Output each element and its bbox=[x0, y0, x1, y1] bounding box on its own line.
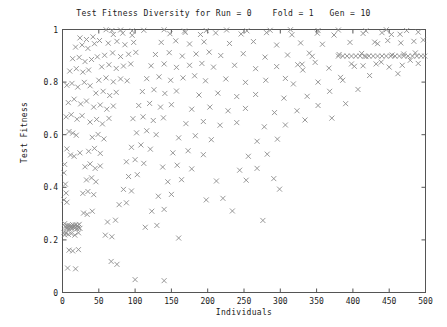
data-point-marker bbox=[316, 80, 321, 85]
data-point-marker bbox=[416, 30, 421, 35]
data-point-marker bbox=[63, 182, 68, 187]
data-point-marker bbox=[77, 35, 82, 40]
data-point-marker bbox=[141, 114, 146, 119]
data-point-marker bbox=[398, 32, 403, 37]
data-point-marker bbox=[316, 103, 321, 108]
data-point-marker bbox=[124, 200, 129, 205]
data-point-marker bbox=[169, 192, 174, 197]
data-point-marker bbox=[181, 75, 186, 80]
x-tick-label: 150 bbox=[164, 297, 178, 306]
data-point-marker bbox=[263, 78, 268, 83]
data-point-marker bbox=[379, 60, 384, 65]
data-point-marker bbox=[72, 97, 77, 102]
data-point-marker bbox=[262, 124, 267, 129]
data-point-marker bbox=[129, 188, 134, 193]
data-point-marker bbox=[140, 89, 145, 94]
data-point-marker bbox=[118, 76, 123, 81]
data-point-marker bbox=[126, 52, 131, 57]
x-axis-label: Individuals bbox=[62, 308, 426, 317]
plot-canvas bbox=[0, 0, 447, 327]
data-point-marker bbox=[154, 132, 159, 137]
data-point-marker bbox=[187, 63, 192, 68]
data-point-marker bbox=[239, 31, 244, 36]
data-point-marker bbox=[105, 220, 110, 225]
data-point-marker bbox=[175, 163, 180, 168]
data-point-marker bbox=[141, 28, 146, 33]
data-point-marker bbox=[86, 149, 91, 154]
data-point-marker bbox=[158, 105, 163, 110]
data-point-marker bbox=[387, 65, 392, 70]
data-point-marker bbox=[338, 75, 343, 80]
data-point-marker bbox=[97, 38, 102, 43]
data-point-marker bbox=[388, 54, 393, 59]
data-point-marker bbox=[302, 117, 307, 122]
data-point-marker bbox=[113, 218, 118, 223]
data-point-marker bbox=[134, 130, 139, 135]
data-point-marker bbox=[80, 70, 85, 75]
data-point-marker bbox=[218, 53, 223, 58]
data-point-marker bbox=[291, 81, 296, 86]
data-point-marker bbox=[73, 266, 78, 271]
data-point-marker bbox=[106, 41, 111, 46]
y-tick-label: 0.6 bbox=[14, 130, 58, 139]
data-point-marker bbox=[95, 54, 100, 59]
data-point-marker bbox=[422, 54, 427, 59]
y-tick-label: 0 bbox=[14, 288, 58, 297]
data-point-marker bbox=[149, 209, 154, 214]
data-point-marker bbox=[162, 207, 167, 212]
data-point-marker bbox=[91, 105, 96, 110]
data-point-marker bbox=[92, 146, 97, 151]
data-point-marker bbox=[69, 112, 74, 117]
data-point-marker bbox=[168, 78, 173, 83]
data-point-marker bbox=[220, 196, 225, 201]
data-point-marker bbox=[400, 63, 405, 68]
data-point-marker bbox=[162, 278, 167, 283]
data-point-marker bbox=[375, 54, 380, 59]
data-point-marker bbox=[213, 30, 218, 35]
data-point-marker bbox=[106, 116, 111, 121]
data-point-marker bbox=[189, 107, 194, 112]
data-point-marker bbox=[93, 166, 98, 171]
data-point-marker bbox=[65, 266, 70, 271]
data-point-marker bbox=[114, 90, 119, 95]
data-point-marker bbox=[94, 117, 99, 122]
data-point-marker bbox=[174, 89, 179, 94]
data-point-marker bbox=[124, 159, 129, 164]
data-point-marker bbox=[117, 202, 122, 207]
data-point-marker bbox=[345, 54, 350, 59]
data-point-marker bbox=[88, 161, 93, 166]
data-point-marker bbox=[274, 43, 279, 48]
scatter-plot-figure: Test Fitness Diversity for Run = 0 Fold … bbox=[0, 0, 447, 327]
data-point-marker bbox=[246, 154, 251, 159]
data-point-marker bbox=[74, 66, 79, 71]
data-point-marker bbox=[147, 101, 152, 106]
data-point-marker bbox=[66, 100, 71, 105]
data-point-marker bbox=[218, 123, 223, 128]
data-point-marker bbox=[92, 41, 97, 46]
data-point-marker bbox=[174, 65, 179, 70]
data-point-marker bbox=[111, 79, 116, 84]
data-point-marker bbox=[230, 208, 235, 213]
data-point-marker bbox=[118, 54, 123, 59]
data-point-marker bbox=[70, 248, 75, 253]
data-point-marker bbox=[202, 39, 207, 44]
data-point-marker bbox=[77, 150, 82, 155]
data-point-marker bbox=[125, 78, 130, 83]
data-point-marker bbox=[86, 68, 91, 73]
data-point-marker bbox=[64, 114, 69, 119]
data-point-marker bbox=[128, 61, 133, 66]
data-point-marker bbox=[98, 151, 103, 156]
data-point-marker bbox=[82, 80, 87, 85]
data-point-marker bbox=[165, 179, 170, 184]
data-point-marker bbox=[131, 40, 136, 45]
data-point-marker bbox=[395, 71, 400, 76]
data-point-marker bbox=[404, 28, 409, 33]
data-point-marker bbox=[129, 145, 134, 150]
data-point-marker bbox=[121, 64, 126, 69]
data-point-marker bbox=[109, 259, 114, 264]
data-point-marker bbox=[343, 101, 348, 106]
data-point-marker bbox=[398, 40, 403, 45]
data-point-marker bbox=[148, 147, 153, 152]
data-point-marker bbox=[110, 50, 115, 55]
data-point-marker bbox=[114, 39, 119, 44]
